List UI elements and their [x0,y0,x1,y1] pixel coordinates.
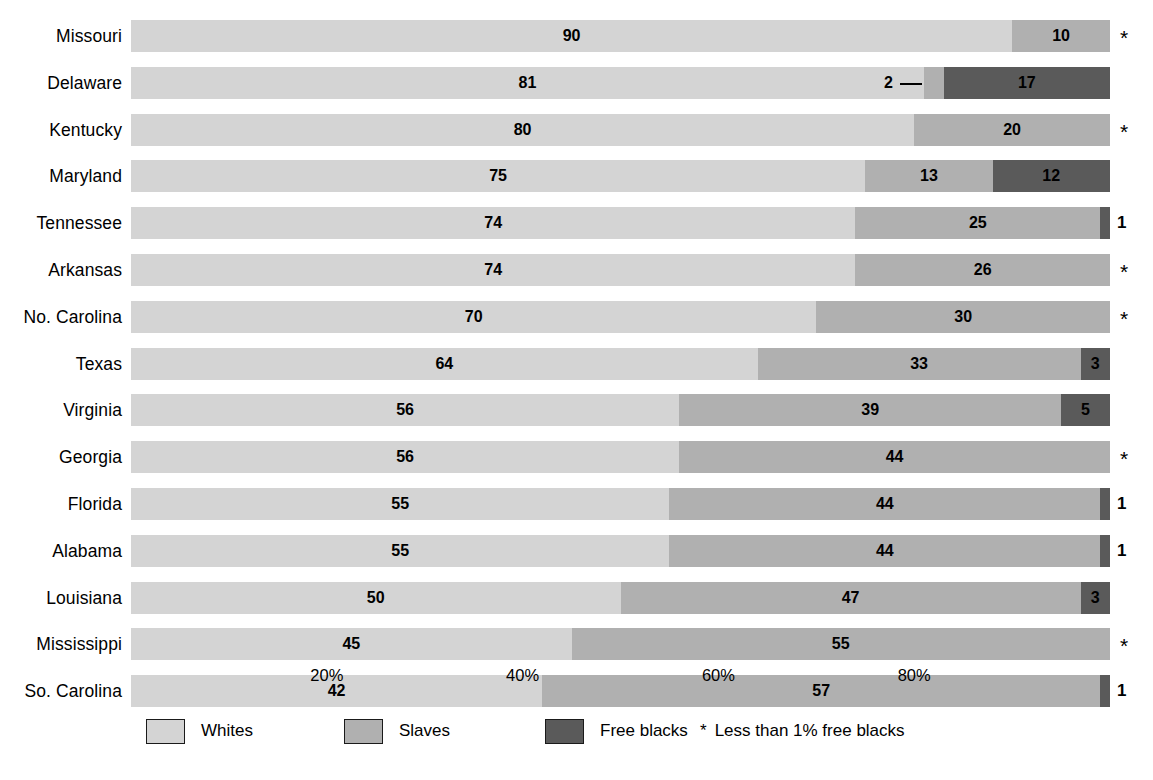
segment-slaves: 20 [914,114,1110,146]
segment-free-blacks [1100,488,1110,520]
bar-track: 9010 [131,20,1110,52]
row-label-tennessee: Tennessee [0,207,122,239]
row-asterisk-icon: * [1120,628,1128,660]
segment-slaves: 39 [679,394,1061,426]
bar-track: 5544 [131,535,1110,567]
legend-swatch [344,719,383,744]
row-label-georgia: Georgia [0,441,122,473]
segment-slaves: 25 [855,207,1100,239]
row-label-missouri: Missouri [0,20,122,52]
segment-value: 30 [816,301,1110,333]
row-asterisk-icon: * [1120,254,1128,286]
bar-track: 81217 [131,67,1110,99]
row-asterisk-icon: * [1120,20,1128,52]
chart-row: Maryland751312 [0,160,1153,192]
segment-value: 64 [131,348,758,380]
x-tick-label: 40% [506,666,539,685]
legend-item-slaves: Slaves [344,715,450,747]
segment-value: 80 [131,114,914,146]
row-label-florida: Florida [0,488,122,520]
segment-whites: 55 [131,535,669,567]
legend-item-whites: Whites [146,715,253,747]
chart-row: Kentucky8020* [0,114,1153,146]
x-axis: 20%40%60%80% [131,666,1110,692]
bar-track: 56395 [131,394,1110,426]
row-label-texas: Texas [0,348,122,380]
segment-whites: 81 [131,67,924,99]
x-tick-label: 20% [310,666,343,685]
chart-row: Louisiana50473 [0,582,1153,614]
bar-track: 751312 [131,160,1110,192]
bar-track: 4555 [131,628,1110,660]
segment-whites: 45 [131,628,572,660]
segment-free-blacks [1100,535,1110,567]
chart-row: No. Carolina7030* [0,301,1153,333]
segment-slaves: 55 [572,628,1110,660]
bar-track: 7030 [131,301,1110,333]
row-label-delaware: Delaware [0,67,122,99]
segment-value: 45 [131,628,572,660]
legend-swatch [146,719,185,744]
row-label-virginia: Virginia [0,394,122,426]
segment-slaves: 13 [865,160,992,192]
segment-free-blacks: 3 [1081,348,1110,380]
chart-row: Missouri9010* [0,20,1153,52]
row-outside-value: 1 [1117,675,1126,707]
bar-track: 64333 [131,348,1110,380]
segment-value: 10 [1012,20,1110,52]
chart-row: Alabama55441 [0,535,1153,567]
segment-value: 74 [131,254,855,286]
row-asterisk-icon: * [1120,301,1128,333]
chart-row: Arkansas7426* [0,254,1153,286]
segment-value: 13 [865,160,992,192]
chart-row: Texas64333 [0,348,1153,380]
legend-item-free-blacks: Free blacks [545,715,688,747]
segment-whites: 64 [131,348,758,380]
segment-whites: 50 [131,582,621,614]
segment-slaves: 30 [816,301,1110,333]
segment-free-blacks: 17 [944,67,1110,99]
segment-value: 74 [131,207,855,239]
row-label-alabama: Alabama [0,535,122,567]
segment-slaves: 44 [669,488,1100,520]
segment-whites: 75 [131,160,865,192]
segment-value: 75 [131,160,865,192]
bar-track: 7426 [131,254,1110,286]
segment-value: 44 [669,535,1100,567]
chart-row: Mississippi4555* [0,628,1153,660]
segment-value: 81 [131,67,924,99]
segment-slaves: 26 [855,254,1110,286]
chart-legend: *Less than 1% free blacks WhitesSlavesFr… [0,715,1153,755]
row-outside-value: 1 [1117,535,1126,567]
bar-track: 5544 [131,488,1110,520]
x-tick-label: 80% [898,666,931,685]
segment-slaves: 44 [679,441,1110,473]
bar-track: 5644 [131,441,1110,473]
segment-value: 39 [679,394,1061,426]
segment-whites: 56 [131,441,679,473]
segment-value: 50 [131,582,621,614]
chart-row: Tennessee74251 [0,207,1153,239]
row-label-louisiana: Louisiana [0,582,122,614]
legend-label: Slaves [399,721,450,741]
segment-free-blacks [1100,207,1110,239]
bar-track: 7425 [131,207,1110,239]
chart-row: Virginia56395 [0,394,1153,426]
segment-free-blacks: 3 [1081,582,1110,614]
segment-value: 5 [1061,394,1110,426]
segment-slaves [924,67,944,99]
segment-slaves: 44 [669,535,1100,567]
chart-row: Delaware81217 [0,67,1153,99]
segment-value: 33 [758,348,1081,380]
segment-value: 44 [669,488,1100,520]
row-label-mississippi: Mississippi [0,628,122,660]
row-asterisk-icon: * [1120,114,1128,146]
row-label-kentucky: Kentucky [0,114,122,146]
row-label-maryland: Maryland [0,160,122,192]
segment-value: 47 [621,582,1081,614]
legend-label: Whites [201,721,253,741]
segment-value-leader: 2 [852,67,924,99]
segment-value: 44 [679,441,1110,473]
segment-value: 90 [131,20,1012,52]
legend-footnote-text: Less than 1% free blacks [715,721,905,740]
